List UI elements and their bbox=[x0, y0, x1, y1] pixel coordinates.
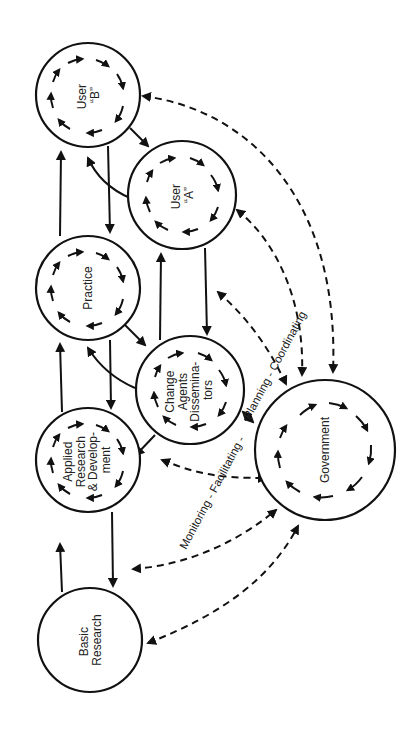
node-label-government: Government bbox=[318, 416, 332, 483]
node-user-b: User “B” bbox=[36, 43, 140, 147]
link-basic-government bbox=[148, 526, 298, 643]
node-applied-research: Applied Research & Develop- ment bbox=[36, 408, 140, 512]
link-practice-to-changeagents bbox=[125, 325, 145, 345]
link-changeagents-to-usera bbox=[160, 254, 161, 340]
link-usera-government bbox=[237, 210, 302, 375]
node-government: Government bbox=[255, 380, 395, 520]
link-userb-to-practice bbox=[108, 146, 110, 232]
link-usera-to-changeagents bbox=[205, 248, 207, 334]
link-applied-to-practice bbox=[60, 344, 62, 412]
node-change-agents: Change Agents Dissemina- tors bbox=[136, 336, 244, 444]
link-applied-to-basic bbox=[112, 512, 113, 586]
edge-label-monitoring: Monitoring - Facilitating - bbox=[177, 434, 247, 551]
node-user-a: User “A” bbox=[128, 141, 236, 249]
link-basic-to-applied bbox=[60, 544, 62, 592]
innovation-diffusion-diagram: Monitoring - Facilitating - Planning - C… bbox=[0, 0, 414, 747]
node-label-practice: Practice bbox=[81, 266, 95, 310]
link-practice-to-applied bbox=[110, 340, 111, 408]
node-basic-research: Basic Research bbox=[38, 588, 142, 692]
link-practice-to-userb bbox=[60, 152, 61, 236]
node-practice: Practice bbox=[36, 236, 140, 340]
link-userb-to-usera bbox=[130, 128, 148, 146]
